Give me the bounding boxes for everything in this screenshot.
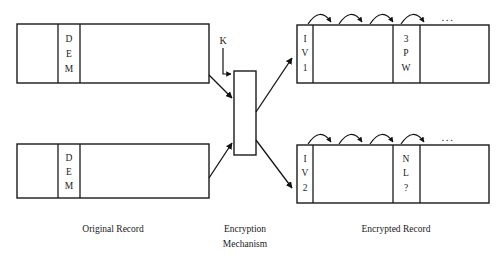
original-record-bottom-cell-letter: M <box>65 181 74 191</box>
encrypted-record-bottom-token-letter: N <box>403 154 410 164</box>
output-arrow-top <box>256 58 292 112</box>
original-record-top-cell-letter: M <box>65 64 74 74</box>
original-record-bottom: D E M <box>17 144 209 198</box>
chain-arc <box>401 14 424 24</box>
encrypted-record-top-iv-letter: 1 <box>303 63 308 73</box>
output-arrow-bottom <box>256 140 292 188</box>
chain-arc <box>308 14 331 24</box>
encrypted-record-bottom-token-letter: L <box>403 168 409 178</box>
encrypted-record-top-token-letter: W <box>402 63 411 73</box>
encrypted-record-bottom-iv-letter: I <box>303 154 306 164</box>
mechanism-input-arrows <box>209 75 232 178</box>
original-record-top-outline <box>17 24 209 83</box>
original-record-bottom-cell-letter: E <box>66 167 72 177</box>
mechanism-output-arrows <box>256 58 292 188</box>
input-arrow-bottom <box>209 143 232 178</box>
encrypted-record-bottom-token-letter: ? <box>404 183 408 193</box>
diagram-canvas: D E M D E M K <box>0 0 496 259</box>
caption-encryption-mechanism-line1: Encryption <box>224 224 266 234</box>
original-record-top-cell-letter: E <box>66 49 72 59</box>
input-arrow-top <box>209 75 232 98</box>
chain-ellipsis-top: ... <box>441 11 454 23</box>
original-record-top: D E M <box>17 24 209 83</box>
encrypted-record-bottom-iv-letter: V <box>302 168 309 178</box>
key-input: K <box>219 35 231 74</box>
chain-arc <box>401 134 424 144</box>
encryption-mechanism-box <box>234 71 256 155</box>
original-record-bottom-cell-letter: D <box>66 153 73 163</box>
caption-encryption-mechanism-line2: Mechanism <box>223 239 268 249</box>
encrypted-record-top-token-letter: P <box>403 48 408 58</box>
encryption-mechanism-outline <box>234 71 256 155</box>
key-arrow <box>223 48 231 74</box>
original-record-bottom-outline <box>17 144 209 198</box>
key-label: K <box>219 35 227 46</box>
encrypted-record-top-iv-letter: V <box>302 48 309 58</box>
chain-arc <box>339 14 362 24</box>
encrypted-record-top-token-letter: 3 <box>404 34 409 44</box>
chain-arc <box>370 14 393 24</box>
chain-arc <box>308 134 331 144</box>
encrypted-record-top-iv-letter: I <box>303 34 306 44</box>
encryption-diagram: D E M D E M K <box>0 0 496 259</box>
chain-arc <box>339 134 362 144</box>
caption-original-record: Original Record <box>82 224 144 234</box>
caption-encrypted-record: Encrypted Record <box>362 224 431 234</box>
encrypted-record-top: I V 1 3 P W ... <box>297 11 489 83</box>
original-record-top-cell-letter: D <box>66 34 73 44</box>
encrypted-record-bottom-iv-letter: 2 <box>303 183 308 193</box>
chain-ellipsis-bottom: ... <box>441 131 454 143</box>
encrypted-record-bottom: I V 2 N L ? ... <box>297 131 489 203</box>
chain-arc <box>370 134 393 144</box>
